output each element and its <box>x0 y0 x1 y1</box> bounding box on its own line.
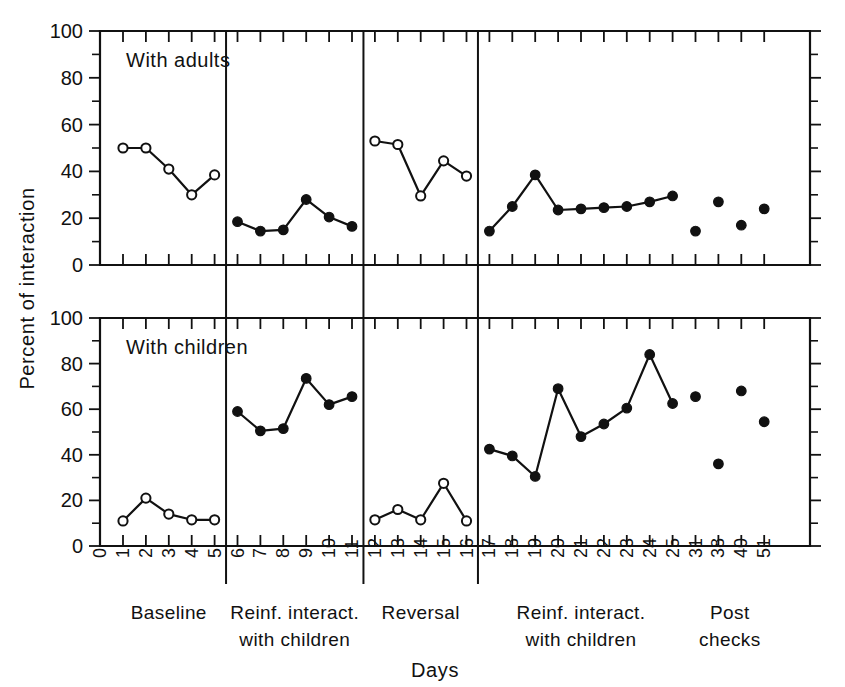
series-children-reinf-interact-with-children-2 <box>485 350 678 482</box>
x-tick-label: 17 <box>479 538 499 558</box>
data-point-filled <box>576 204 586 214</box>
data-point-filled <box>576 432 586 442</box>
data-point-open <box>118 516 127 525</box>
x-tick-label: 40 <box>731 538 751 558</box>
data-point-filled <box>485 444 495 454</box>
data-point-filled <box>737 386 747 396</box>
x-tick-label: 22 <box>594 538 614 558</box>
x-tick-label: 16 <box>457 538 477 558</box>
data-point-filled <box>508 451 518 461</box>
series-adults-reversal <box>370 136 471 200</box>
series-adults-baseline <box>118 143 219 199</box>
phase-label-line1: Baseline <box>131 602 207 623</box>
panel-children: 020406080100With children <box>50 307 821 557</box>
x-tick-label: 8 <box>273 548 293 558</box>
data-point-filled <box>324 400 334 410</box>
data-point-open <box>210 515 219 524</box>
y-tick-label: 20 <box>61 207 83 229</box>
panel-title-adults: With adults <box>126 49 230 71</box>
y-tick-label: 80 <box>61 67 83 89</box>
data-point-open <box>141 143 150 152</box>
x-tick-label: 18 <box>502 538 522 558</box>
phase-label-line2: checks <box>699 629 761 650</box>
y-tick-label: 0 <box>72 535 83 557</box>
data-point-filled <box>645 197 655 207</box>
series-polyline <box>238 378 353 430</box>
x-tick-label: 21 <box>571 538 591 558</box>
y-tick-label: 100 <box>50 20 83 42</box>
data-point-filled <box>553 384 563 394</box>
y-tick-label: 100 <box>50 307 83 329</box>
x-tick-label: 6 <box>228 548 248 558</box>
x-tick-label: 51 <box>754 538 774 558</box>
series-children-post-checks <box>691 386 769 469</box>
panel-title-children: With children <box>126 336 248 358</box>
x-tick-label: 31 <box>686 538 706 558</box>
phase-label-line2: with children <box>525 629 637 650</box>
data-point-filled <box>301 195 311 205</box>
data-point-open <box>439 156 448 165</box>
series-polyline <box>375 141 467 196</box>
data-point-filled <box>324 212 334 222</box>
data-point-open <box>141 494 150 503</box>
figure-root: 020406080100With adults020406080100With … <box>0 0 845 687</box>
phase-label-line2: with children <box>238 629 350 650</box>
y-tick-label: 0 <box>72 254 83 276</box>
data-point-filled <box>553 205 563 215</box>
series-children-reinf-interact-with-children <box>233 374 357 436</box>
phase-label-line1: Reversal <box>382 602 460 623</box>
data-point-open <box>118 143 127 152</box>
data-point-filled <box>279 225 289 235</box>
data-point-open <box>439 479 448 488</box>
data-point-open <box>462 171 471 180</box>
y-tick-label: 40 <box>61 444 83 466</box>
data-point-open <box>393 505 402 514</box>
x-tick-label: 12 <box>365 538 385 558</box>
data-point-open <box>187 190 196 199</box>
data-point-open <box>187 515 196 524</box>
data-point-open <box>370 136 379 145</box>
data-point-filled <box>530 472 540 482</box>
panel-adults: 020406080100With adults <box>50 20 821 276</box>
data-point-open <box>164 164 173 173</box>
series-adults-reinf-interact-with-children <box>233 195 357 236</box>
data-point-filled <box>714 459 724 469</box>
x-tick-label: 14 <box>411 538 431 558</box>
data-point-filled <box>301 374 311 384</box>
data-point-filled <box>691 392 701 402</box>
phase-label-line1: Post <box>710 602 750 623</box>
data-point-filled <box>279 424 289 434</box>
data-point-filled <box>599 419 609 429</box>
y-tick-label: 80 <box>61 353 83 375</box>
y-tick-label: 20 <box>61 489 83 511</box>
y-tick-label: 40 <box>61 160 83 182</box>
data-point-filled <box>668 191 678 201</box>
series-adults-post-checks <box>691 197 769 236</box>
data-point-filled <box>347 222 357 232</box>
data-point-open <box>393 140 402 149</box>
y-tick-label: 60 <box>61 114 83 136</box>
data-point-filled <box>233 217 243 227</box>
x-tick-label: 15 <box>434 538 454 558</box>
x-tick-label: 9 <box>296 548 316 558</box>
data-point-open <box>416 515 425 524</box>
data-point-filled <box>622 403 632 413</box>
data-point-filled <box>347 392 357 402</box>
data-point-open <box>164 509 173 518</box>
data-point-filled <box>691 226 701 236</box>
x-tick-label: 0 <box>90 548 110 558</box>
data-point-open <box>462 516 471 525</box>
data-point-filled <box>599 203 609 213</box>
x-tick-label: 20 <box>548 538 568 558</box>
x-tick-label: 5 <box>205 548 225 558</box>
x-tick-label: 23 <box>617 538 637 558</box>
series-adults-reinf-interact-with-children-2 <box>485 170 678 236</box>
data-point-open <box>416 191 425 200</box>
data-point-filled <box>256 226 266 236</box>
data-point-filled <box>233 407 243 417</box>
data-point-filled <box>668 399 678 409</box>
x-tick-label: 2 <box>136 548 156 558</box>
x-tick-label: 19 <box>525 538 545 558</box>
x-tick-label: 3 <box>159 548 179 558</box>
x-tick-label: 7 <box>250 548 270 558</box>
